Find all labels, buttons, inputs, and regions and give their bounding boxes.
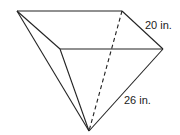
base-edge-label: 20 in.: [145, 19, 172, 31]
base-edge-left: [17, 11, 60, 49]
slant-edge-label: 26 in.: [124, 94, 151, 106]
lateral-edge-top-left: [17, 11, 89, 131]
pyramid-figure: 20 in. 26 in.: [0, 0, 180, 135]
lateral-edge-front-right: [89, 49, 163, 131]
